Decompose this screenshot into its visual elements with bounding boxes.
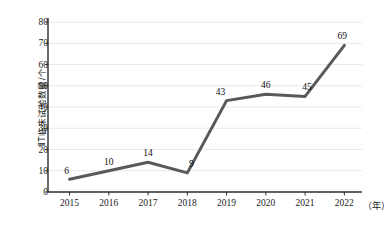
data-point-label: 69 (338, 31, 348, 41)
x-axis-tick-label: 2022 (335, 198, 354, 208)
axis-tick-marks (45, 22, 344, 196)
x-axis-tick-label: 2017 (139, 198, 158, 208)
data-point-label: 43 (216, 87, 226, 97)
x-axis-tick-label: 2021 (296, 198, 315, 208)
x-axis-tick-label: 2020 (256, 198, 275, 208)
data-point-label: 10 (104, 157, 114, 167)
data-point-label: 9 (189, 159, 194, 169)
data-point-label: 14 (143, 148, 153, 158)
x-axis-tick-label: 2018 (178, 198, 197, 208)
data-point-label: 6 (64, 166, 69, 176)
x-axis-tick-label: 2016 (99, 198, 118, 208)
x-axis-tick-label: 2015 (60, 198, 79, 208)
axis-lines (48, 18, 362, 192)
data-point-label: 45 (302, 82, 312, 92)
gridlines (48, 22, 362, 171)
x-axis-unit-label: （年） (363, 199, 389, 212)
data-point-label: 46 (261, 80, 271, 90)
x-axis-tick-label: 2019 (217, 198, 236, 208)
